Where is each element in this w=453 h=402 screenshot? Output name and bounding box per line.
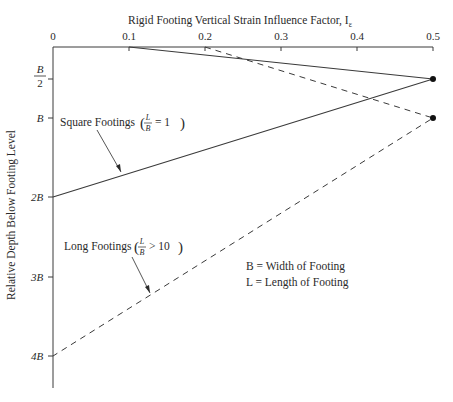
influence-factor-diagram: Rigid Footing Vertical Strain Influence … <box>0 0 453 402</box>
diagram-title: Rigid Footing Vertical Strain Influence … <box>128 14 353 29</box>
paren-close: ) <box>178 239 183 256</box>
x-tick-0.2: 0.2 <box>198 30 212 42</box>
arrow-head-icon <box>145 285 150 293</box>
x-tick-0: 0 <box>50 30 56 42</box>
legend-width: B = Width of Footing <box>246 260 345 273</box>
x-tick-0.4: 0.4 <box>350 30 364 42</box>
x-tick-labels: 0 0.1 0.2 0.3 0.4 0.5 <box>50 30 440 42</box>
square-footings-annotation: Square Footings ( L B = 1 ) <box>60 113 185 172</box>
long-ratio-den: B <box>140 248 145 257</box>
square-footings-label: Square Footings <box>60 116 136 129</box>
legend-length: L = Length of Footing <box>246 276 349 289</box>
paren-open: ( <box>140 115 145 132</box>
long-ratio-relation: > 10 <box>149 240 170 252</box>
long-ratio-num: L <box>139 237 145 246</box>
long-footings-curve <box>53 47 433 356</box>
x-tick-0.3: 0.3 <box>274 30 288 42</box>
y-tick-half-num: B <box>37 63 44 75</box>
square-ratio-relation: = 1 <box>155 116 170 128</box>
paren-open: ( <box>134 239 139 256</box>
x-tick-0.5: 0.5 <box>426 30 440 42</box>
axes <box>48 47 433 388</box>
y-tick-4B: 4B <box>31 350 44 362</box>
x-tick-0.1: 0.1 <box>122 30 136 42</box>
long-footings-annotation: Long Footings ( L B > 10 ) <box>64 237 183 293</box>
paren-close: ) <box>180 115 185 132</box>
square-ratio-den: B <box>146 124 151 133</box>
y-tick-labels: B 2 B 2B 3B 4B <box>30 63 46 362</box>
square-ratio-num: L <box>145 113 151 122</box>
y-axis-label: Relative Depth Below Footing Level <box>5 130 18 300</box>
definitions-legend: B = Width of Footing L = Length of Footi… <box>246 260 349 289</box>
y-tick-2B: 2B <box>31 191 44 203</box>
y-tick-half-den: 2 <box>37 77 43 89</box>
y-tick-3B: 3B <box>30 271 44 283</box>
peak-marker-long <box>430 115 436 121</box>
long-footings-label: Long Footings <box>64 240 132 253</box>
peak-marker-square <box>430 76 436 82</box>
y-tick-B: B <box>37 112 44 124</box>
